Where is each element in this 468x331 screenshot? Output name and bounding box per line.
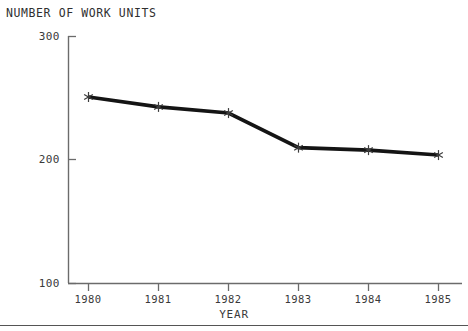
y-tick-label-300: 300 (18, 30, 60, 43)
footer-divider (0, 325, 468, 326)
x-axis-title: YEAR (0, 308, 468, 321)
x-tick-label-1981: 1981 (128, 293, 188, 305)
data-line-series (89, 97, 439, 155)
x-tick-label-1980: 1980 (58, 293, 118, 305)
x-tick-label-1982: 1982 (198, 293, 258, 305)
x-tick-label-1984: 1984 (338, 293, 398, 305)
x-tick-label-1983: 1983 (268, 293, 328, 305)
y-tick-label-200: 200 (18, 153, 60, 166)
y-tick-label-100: 100 (18, 277, 60, 290)
x-axis-ticks (89, 283, 439, 291)
plot-area (0, 0, 468, 331)
x-tick-label-1985: 1985 (408, 293, 468, 305)
chart-figure: NUMBER OF WORK UNITS 300 200 100 1980 (0, 0, 468, 331)
